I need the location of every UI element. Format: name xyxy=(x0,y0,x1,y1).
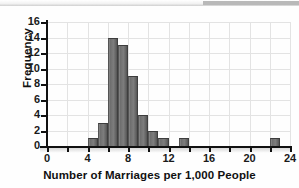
y-axis-line xyxy=(46,20,48,148)
y-axis-tick-label: 4 xyxy=(18,109,40,120)
histogram-bar xyxy=(138,115,148,146)
y-axis-tick-label: 16 xyxy=(18,16,40,27)
x-axis-tick-label: 16 xyxy=(196,152,222,164)
y-axis-tick-label: 12 xyxy=(18,47,40,58)
histogram-bar xyxy=(158,138,168,146)
y-axis-tick-label: 8 xyxy=(18,78,40,89)
x-axis-tick-label: 4 xyxy=(75,152,101,164)
x-axis-tick xyxy=(189,146,191,152)
y-axis-tick-label: 6 xyxy=(18,94,40,105)
x-axis-tick xyxy=(148,146,150,152)
x-axis-tick xyxy=(229,146,231,152)
page-top-edge-shade xyxy=(203,1,299,5)
plot-area xyxy=(47,22,290,146)
y-axis-tick-label: 0 xyxy=(18,140,40,151)
histogram-bar xyxy=(179,138,189,146)
x-axis-tick xyxy=(270,146,272,152)
grid-line-vertical xyxy=(290,22,291,146)
y-axis-tick-label: 14 xyxy=(18,32,40,43)
x-axis-title: Number of Marriages per 1,000 People xyxy=(0,169,299,181)
x-axis-tick-label: 0 xyxy=(34,152,60,164)
histogram-bar xyxy=(128,76,138,146)
x-axis-tick-label: 8 xyxy=(115,152,141,164)
x-axis-tick-label: 20 xyxy=(237,152,263,164)
histogram-bar xyxy=(148,131,158,147)
x-axis-tick xyxy=(108,146,110,152)
y-axis-tick-label: 2 xyxy=(18,125,40,136)
histogram-bars xyxy=(47,22,290,146)
x-axis-tick-label: 24 xyxy=(277,152,299,164)
histogram-figure: Frequency 0246810121416 04812162024 Numb… xyxy=(0,0,299,188)
histogram-bar xyxy=(108,38,118,147)
histogram-bar xyxy=(98,123,108,146)
y-axis-tick-label: 10 xyxy=(18,63,40,74)
histogram-bar xyxy=(118,45,128,146)
histogram-bar xyxy=(88,138,98,146)
page-top-edge xyxy=(0,0,299,6)
x-axis-tick-label: 12 xyxy=(156,152,182,164)
histogram-bar xyxy=(270,138,280,146)
x-axis-tick xyxy=(67,146,69,152)
